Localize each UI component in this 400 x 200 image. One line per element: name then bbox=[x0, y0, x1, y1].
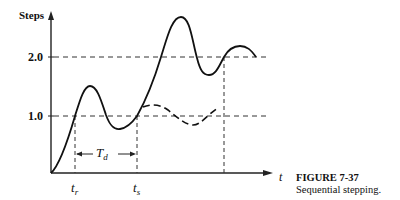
y-tick-1: 1.0 bbox=[28, 110, 43, 122]
td-left-arrow-icon bbox=[76, 152, 82, 157]
t-r-sub: r bbox=[75, 187, 79, 197]
single-step-dashed-curve bbox=[143, 105, 218, 125]
x-axis-label: t bbox=[279, 171, 282, 183]
y-axis-label: Steps bbox=[19, 10, 44, 21]
figure-caption: FIGURE 7-37 Sequential stepping. bbox=[296, 172, 381, 195]
figure-caption-text: Sequential stepping. bbox=[296, 184, 381, 196]
t-s-sub: s bbox=[137, 187, 141, 197]
response-curve bbox=[51, 17, 256, 173]
x-axis-arrow-icon bbox=[263, 170, 273, 176]
step-response-diagram bbox=[0, 0, 400, 200]
y-tick-2: 2.0 bbox=[28, 51, 43, 63]
td-right-arrow-icon bbox=[130, 152, 136, 157]
y-axis-arrow-icon bbox=[48, 11, 54, 20]
t-s-label: ts bbox=[133, 181, 140, 194]
t-d-label: Td bbox=[96, 146, 108, 159]
figure-number: FIGURE 7-37 bbox=[296, 172, 381, 184]
t-d-sub: d bbox=[103, 152, 108, 162]
t-r-label: tr bbox=[71, 181, 78, 194]
